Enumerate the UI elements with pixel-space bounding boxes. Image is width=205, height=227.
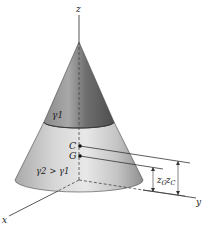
center-of-gravity-point — [78, 154, 82, 158]
zc-label: zC — [165, 175, 175, 187]
x-axis — [9, 191, 58, 216]
x-axis-label: x — [2, 215, 7, 225]
upper-region-label: γ1 — [52, 110, 63, 120]
center-of-gravity-label: G — [69, 150, 77, 161]
lower-region-label: γ2 > γ1 — [36, 166, 70, 176]
y-axis-label: y — [195, 197, 202, 207]
z-axis-label: z — [75, 4, 81, 14]
centroid-point — [78, 144, 82, 148]
cone-diagram: z x y γ1 γ2 > γ1 C G zG zC — [0, 0, 205, 227]
zg-dimension — [151, 167, 155, 192]
zc-dimension — [176, 161, 180, 195]
